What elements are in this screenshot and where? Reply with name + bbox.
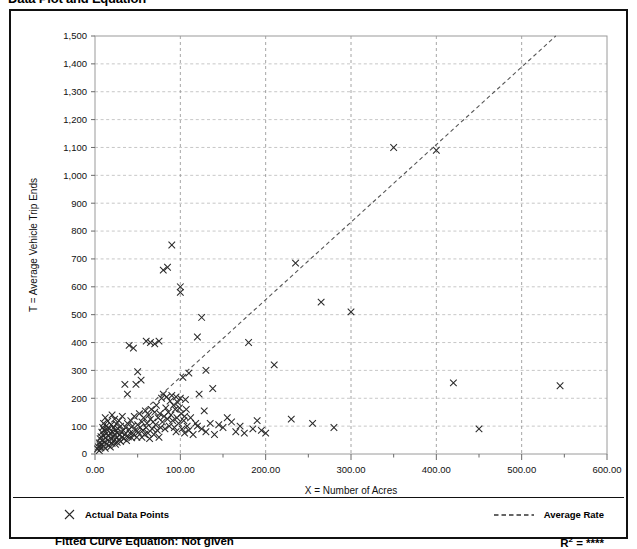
r2-equals: =	[573, 537, 586, 549]
legend-actual-data-points-label: Actual Data Points	[85, 509, 169, 520]
svg-text:600.00: 600.00	[592, 464, 621, 475]
svg-text:0: 0	[82, 448, 87, 459]
x-marker-icon	[63, 508, 76, 521]
legend-divider	[13, 497, 624, 498]
svg-text:1,100: 1,100	[63, 142, 87, 153]
svg-text:X = Number of Acres: X = Number of Acres	[305, 485, 398, 496]
chart-card: 01002003004005006007008009001,0001,1001,…	[9, 9, 628, 539]
svg-text:100.00: 100.00	[166, 464, 195, 475]
svg-text:100: 100	[71, 421, 87, 432]
svg-text:500.00: 500.00	[507, 464, 536, 475]
svg-text:700: 700	[71, 253, 87, 264]
svg-text:400: 400	[71, 337, 87, 348]
r2-label: R	[560, 537, 568, 549]
legend-average-rate-label: Average Rate	[544, 509, 604, 520]
svg-text:1,300: 1,300	[63, 86, 87, 97]
svg-text:1,200: 1,200	[63, 114, 87, 125]
fitted-curve-equation: Fitted Curve Equation: Not given	[55, 535, 234, 547]
svg-text:200: 200	[71, 393, 87, 404]
scatter-chart: 01002003004005006007008009001,0001,1001,…	[11, 11, 626, 537]
svg-text:300: 300	[71, 365, 87, 376]
svg-text:1,400: 1,400	[63, 58, 87, 69]
svg-text:500: 500	[71, 309, 87, 320]
svg-text:200.00: 200.00	[251, 464, 280, 475]
svg-text:600: 600	[71, 281, 87, 292]
svg-text:0.00: 0.00	[86, 464, 105, 475]
svg-text:300.00: 300.00	[336, 464, 365, 475]
page-title: Data Plot and Equation	[8, 0, 146, 6]
svg-text:800: 800	[71, 225, 87, 236]
svg-text:900: 900	[71, 198, 87, 209]
r2-stars: ****	[586, 537, 604, 549]
svg-text:T = Average Vehicle Trip Ends: T = Average Vehicle Trip Ends	[28, 178, 39, 312]
dashed-line-icon	[494, 514, 534, 516]
svg-text:400.00: 400.00	[422, 464, 451, 475]
r-squared-value: R2 = ****	[560, 535, 604, 549]
svg-text:1,500: 1,500	[63, 30, 87, 41]
svg-text:1,000: 1,000	[63, 170, 87, 181]
